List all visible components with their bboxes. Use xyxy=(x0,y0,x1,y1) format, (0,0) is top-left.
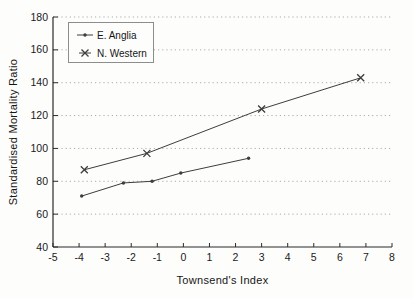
data-point xyxy=(247,157,250,160)
y-tick-label: 120 xyxy=(30,109,48,121)
x-tick-label: 5 xyxy=(311,251,317,263)
x-tick-label: -4 xyxy=(74,251,83,263)
y-tick-label: 180 xyxy=(30,11,48,23)
data-point-x xyxy=(258,106,265,113)
legend-item-e-anglia: E. Anglia xyxy=(75,26,153,44)
series-e-anglia xyxy=(80,157,250,198)
x-tick-label: 3 xyxy=(259,251,265,263)
data-point-x xyxy=(357,74,364,81)
y-axis-label: Standardised Mortality Ratio xyxy=(7,22,19,242)
x-tick-label: -5 xyxy=(48,251,57,263)
y-tick-label: 40 xyxy=(36,241,48,253)
data-point-x xyxy=(81,166,88,173)
x-tick-label: 8 xyxy=(389,251,395,263)
data-point xyxy=(80,194,83,197)
x-tick-label: -1 xyxy=(153,251,162,263)
data-point xyxy=(150,180,153,183)
x-axis-ticks: -5-4-3-2-1012345678 xyxy=(48,243,395,263)
legend-item-n-western: N. Western xyxy=(75,44,153,62)
data-point xyxy=(179,171,182,174)
x-tick-label: 7 xyxy=(363,251,369,263)
data-point xyxy=(122,181,125,184)
x-tick-label: 6 xyxy=(337,251,343,263)
x-tick-label: 4 xyxy=(285,251,291,263)
y-tick-label: 60 xyxy=(36,208,48,220)
chart-canvas: -5-4-3-2-1012345678406080100120140160180 xyxy=(0,0,413,299)
y-tick-label: 100 xyxy=(30,142,48,154)
x-tick-label: 2 xyxy=(233,251,239,263)
legend-label: E. Anglia xyxy=(97,30,136,41)
x-tick-label: -2 xyxy=(127,251,136,263)
x-tick-label: 0 xyxy=(180,251,186,263)
x-tick-label: 1 xyxy=(207,251,213,263)
data-point-x xyxy=(143,150,150,157)
point-marker-icon xyxy=(75,30,97,40)
legend-label: N. Western xyxy=(97,48,147,59)
y-tick-label: 160 xyxy=(30,43,48,55)
mortality-chart-figure: -5-4-3-2-1012345678406080100120140160180… xyxy=(0,0,413,299)
y-tick-label: 80 xyxy=(36,175,48,187)
series-n-western xyxy=(81,74,364,173)
y-axis-ticks: 406080100120140160180 xyxy=(30,11,58,253)
x-marker-icon xyxy=(75,48,97,58)
y-tick-label: 140 xyxy=(30,76,48,88)
legend-box: E. Anglia N. Western xyxy=(68,22,154,63)
x-tick-label: -3 xyxy=(100,251,109,263)
x-axis-label: Townsend's Index xyxy=(0,274,413,286)
